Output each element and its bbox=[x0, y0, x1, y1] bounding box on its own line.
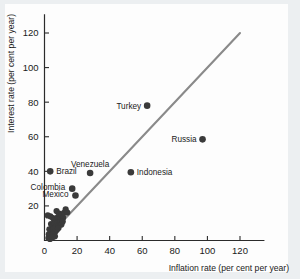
x-tick-label: 0 bbox=[42, 245, 47, 256]
point-label-turkey: Turkey bbox=[116, 102, 142, 111]
x-tick-label: 60 bbox=[137, 245, 148, 256]
data-point-colombia bbox=[69, 185, 76, 192]
x-tick-label: 40 bbox=[104, 245, 115, 256]
y-tick-label: 120 bbox=[23, 27, 39, 38]
chart-figure: 020406080100120 20406080100120 TurkeyRus… bbox=[0, 0, 300, 279]
scatter-plot-svg: 020406080100120 20406080100120 TurkeyRus… bbox=[0, 0, 300, 279]
y-tick-label: 20 bbox=[28, 200, 39, 211]
y-tick-label: 40 bbox=[28, 166, 39, 177]
point-label-indonesia: Indonesia bbox=[137, 168, 173, 177]
x-tick-label: 20 bbox=[72, 245, 83, 256]
reference-line bbox=[48, 33, 240, 237]
data-point-venezuela bbox=[87, 170, 94, 177]
y-tick-label: 100 bbox=[23, 62, 39, 73]
data-point bbox=[49, 234, 55, 240]
data-point bbox=[64, 209, 70, 215]
point-label-venezuela: Venezuela bbox=[71, 160, 110, 169]
data-point bbox=[55, 225, 61, 231]
x-axis-title: Inflation rate (per cent per year) bbox=[169, 263, 290, 273]
y-tick-label: 80 bbox=[28, 97, 39, 108]
y-axis-title: Interest rate (per cent per year) bbox=[6, 14, 16, 133]
data-point-brazil bbox=[47, 168, 54, 175]
point-label-mexico: Mexico bbox=[43, 190, 69, 199]
data-point-russia bbox=[199, 136, 206, 143]
data-point-turkey bbox=[144, 102, 151, 109]
data-points-labeled bbox=[47, 102, 206, 199]
data-points-cluster bbox=[45, 206, 71, 242]
point-label-brazil: Brazil bbox=[56, 167, 77, 176]
x-tick-label: 80 bbox=[170, 245, 181, 256]
point-label-russia: Russia bbox=[171, 135, 196, 144]
data-point bbox=[60, 218, 66, 224]
x-tick-label: 120 bbox=[232, 245, 248, 256]
data-point-indonesia bbox=[128, 169, 135, 176]
x-tick-label: 100 bbox=[199, 245, 215, 256]
y-tick-label: 60 bbox=[28, 131, 39, 142]
point-labels: TurkeyRussiaIndonesiaVenezuelaBrazilColo… bbox=[31, 102, 197, 199]
data-point-mexico bbox=[72, 192, 79, 199]
x-tick-labels: 020406080100120 bbox=[42, 245, 248, 256]
